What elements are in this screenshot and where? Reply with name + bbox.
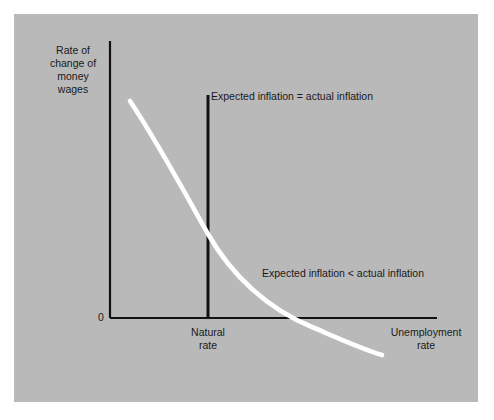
- phillips-curve-figure: Rate of change of money wages 0 Natural …: [0, 0, 494, 420]
- annotation-expected-equals-actual: Expected inflation = actual inflation: [211, 90, 373, 103]
- x-axis-tick-natural-rate: Natural rate: [174, 326, 242, 352]
- y-axis-label: Rate of change of money wages: [40, 44, 106, 96]
- x-axis-label-unemployment-rate: Unemployment rate: [378, 326, 474, 352]
- origin-label: 0: [98, 311, 104, 324]
- annotation-expected-less-than-actual: Expected inflation < actual inflation: [262, 267, 424, 280]
